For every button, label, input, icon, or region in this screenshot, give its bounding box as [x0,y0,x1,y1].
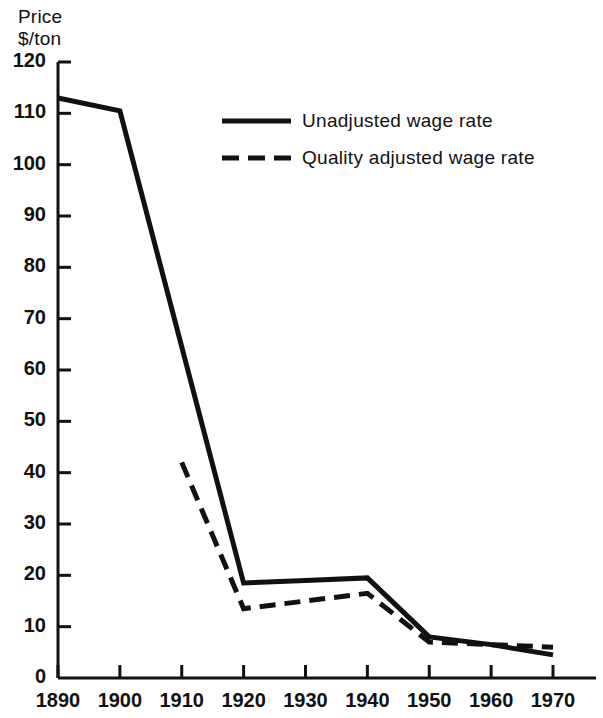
y-tick-label: 70 [0,306,46,329]
legend-label-quality-adjusted: Quality adjusted wage rate [302,147,535,169]
x-axis-ticks [58,665,553,678]
y-tick-label: 0 [0,665,46,688]
series-line-solid [58,98,553,655]
x-tick-label: 1970 [517,689,589,712]
y-tick-label: 20 [0,562,46,585]
y-tick-label: 80 [0,254,46,277]
y-tick-label: 10 [0,614,46,637]
y-axis-ticks [58,62,71,627]
chart-figure: Price $/ton 0102030405060708090100110120… [0,0,603,718]
y-tick-label: 90 [0,203,46,226]
y-tick-label: 50 [0,408,46,431]
plot-area [0,0,603,718]
y-tick-label: 60 [0,357,46,380]
y-tick-label: 120 [0,49,46,72]
legend-swatches [222,121,291,158]
y-tick-label: 110 [0,100,46,123]
y-tick-label: 100 [0,152,46,175]
y-tick-label: 40 [0,460,46,483]
y-tick-label: 30 [0,511,46,534]
data-series-group [58,98,553,655]
legend-label-unadjusted: Unadjusted wage rate [302,110,493,132]
